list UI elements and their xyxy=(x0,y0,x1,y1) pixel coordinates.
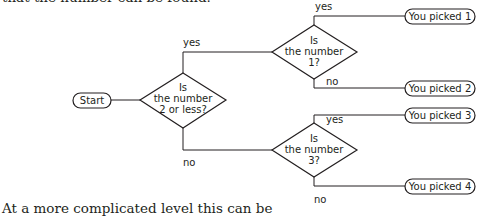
edge-d1-no xyxy=(183,128,273,150)
label-d2-yes: yes xyxy=(315,1,332,12)
outcome-label: You picked 2 xyxy=(408,83,472,94)
edge-d1-yes xyxy=(183,52,273,73)
label-d2-no: no xyxy=(326,76,338,87)
decision-text-line: the number xyxy=(285,144,345,155)
outcome-2: You picked 2 xyxy=(405,81,475,96)
outcome-3: You picked 3 xyxy=(405,108,475,123)
outcome-label: You picked 1 xyxy=(408,11,472,22)
label-d3-yes: yes xyxy=(326,114,343,125)
decision-text-line: Is xyxy=(310,35,318,46)
edge-d2-yes xyxy=(314,16,405,25)
outcome-label: You picked 4 xyxy=(408,181,472,192)
start-terminal: Start xyxy=(73,93,111,108)
decision-text-line: Is xyxy=(310,133,318,144)
decision-text-line: 1? xyxy=(308,57,320,68)
decision-text-line: 3? xyxy=(308,155,320,166)
decision-text-line: Is xyxy=(179,82,187,93)
edge-d3-no xyxy=(314,177,405,186)
body-text-bottom: At a more complicated level this can be xyxy=(2,200,272,216)
label-d1-yes: yes xyxy=(183,37,200,48)
outcome-1: You picked 1 xyxy=(405,9,475,24)
decision-text-line: 2 or less? xyxy=(159,104,207,115)
decision-is-3: Is the number 3? xyxy=(272,123,357,177)
start-label: Start xyxy=(80,95,105,106)
label-d3-no: no xyxy=(314,194,326,205)
decision-is-1: Is the number 1? xyxy=(272,25,357,79)
flowchart: Start Is the number 2 or less? Is the nu… xyxy=(0,0,489,216)
decision-2-or-less: Is the number 2 or less? xyxy=(140,73,226,128)
outcome-4: You picked 4 xyxy=(405,179,475,194)
outcome-label: You picked 3 xyxy=(408,110,472,121)
label-d1-no: no xyxy=(183,157,195,168)
decision-text-line: the number xyxy=(154,93,214,104)
decision-text-line: the number xyxy=(285,46,345,57)
